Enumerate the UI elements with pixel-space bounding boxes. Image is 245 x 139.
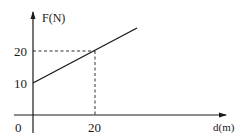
- y-axis-label: F(N): [42, 11, 65, 25]
- origin-label: 0: [15, 120, 22, 135]
- y-tick-10: 10: [14, 76, 27, 91]
- x-axis-label: d(m): [213, 121, 235, 134]
- y-tick-20: 20: [14, 44, 27, 59]
- data-line: [33, 28, 137, 83]
- x-tick-20: 20: [88, 120, 101, 135]
- force-distance-chart: F(N) d(m) 20 10 0 20: [0, 0, 245, 139]
